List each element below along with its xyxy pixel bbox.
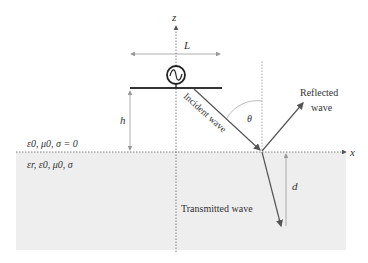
upper-medium-label: ε0, μ0, σ = 0 — [27, 138, 78, 149]
transmitted-wave-label: Transmitted wave — [181, 203, 253, 214]
reflected-wave-arrow — [262, 103, 303, 151]
wave-diagram: z x L h θ d ε0, μ0, σ = 0 εr, ε0, μ0, σ … — [0, 0, 368, 263]
reflected-wave-label-line1: Reflected — [300, 87, 338, 98]
reflected-wave-label-line2: wave — [311, 102, 333, 113]
height-label: h — [120, 114, 126, 126]
angle-label: θ — [247, 113, 252, 124]
incident-wave-label: Incident wave — [182, 91, 228, 134]
width-label: L — [183, 39, 190, 51]
angle-arc — [227, 101, 262, 118]
lower-medium-label: εr, ε0, μ0, σ — [27, 159, 74, 170]
x-axis-label: x — [349, 146, 355, 158]
depth-label: d — [292, 180, 298, 192]
z-axis-label: z — [171, 11, 177, 23]
